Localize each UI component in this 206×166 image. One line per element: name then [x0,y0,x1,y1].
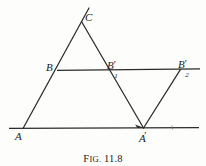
geometry-diagram [0,0,206,166]
figure-caption-word: FIG. [83,154,101,164]
figure-container: C B B′1 B′2 A A′ FIG.11.8 [0,0,206,166]
line-A-to-C-extended [23,8,89,129]
subscript-B1: 1 [114,73,118,80]
vertex-label-B: B [46,62,53,73]
vertex-label-C: C [85,12,92,23]
vertex-label-B1-prime: B′1 [107,56,114,72]
vertex-label-A: A [15,131,22,142]
line-Aprime-to-B2prime [144,69,181,128]
baseline-through-A-and-Aprime [9,128,199,129]
vertex-label-B1-prime-base: B [107,59,114,71]
line-C-to-Aprime [82,22,144,129]
prime-mark-A: ′ [144,130,146,141]
prime-mark-B1: ′ [114,60,116,70]
figure-caption: FIG.11.8 [0,148,206,166]
vertex-label-B2-prime: B′2 [178,55,185,71]
subscript-B2: 2 [185,72,189,79]
prime-mark-B2: ′ [185,59,187,69]
figure-caption-number: 11.8 [104,153,123,164]
figure-caption-smallcaps: IG. [89,154,101,164]
vertex-label-B2-prime-base: B [178,58,185,70]
vertex-label-A-prime: A′ [139,131,146,144]
